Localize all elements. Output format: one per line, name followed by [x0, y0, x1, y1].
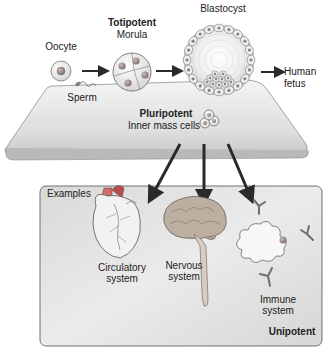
cell-nucleus: [224, 83, 226, 85]
cell-nucleus: [227, 77, 229, 79]
cell-nucleus: [199, 33, 202, 36]
human-fetus-label-line1: Human: [284, 66, 320, 77]
cell-nucleus: [214, 73, 216, 75]
inner-mass-cells-label: Inner mass cells: [124, 120, 204, 131]
cell-nucleus: [208, 28, 211, 31]
cell-nucleus: [187, 49, 190, 52]
cell-nucleus: [249, 58, 252, 61]
cell-nucleus: [217, 26, 220, 29]
cell-nucleus: [230, 81, 232, 83]
cell-nucleus: [243, 40, 246, 43]
cell-nucleus: [208, 89, 211, 92]
oocyte-label: Oocyte: [41, 41, 81, 52]
blastocyst-label: Blastocyst: [195, 3, 251, 14]
oocyte-cell: [51, 61, 71, 81]
circulatory-label-line1: Circulatory: [97, 262, 147, 273]
cell-nucleus: [215, 78, 217, 80]
morula-cell: [113, 53, 151, 91]
nervous-label-line1: Nervous: [164, 260, 204, 271]
nervous-label-line2: system: [164, 271, 204, 282]
cell-nucleus: [209, 77, 211, 79]
cell-nucleus: [192, 40, 195, 43]
cell-nucleus: [227, 89, 230, 92]
cell-nucleus: [218, 84, 220, 86]
immune-label-line2: system: [258, 305, 298, 316]
totipotent-label: Totipotent: [105, 17, 159, 28]
human-fetus-label-line2: fetus: [284, 78, 320, 89]
cell-nucleus: [236, 33, 239, 36]
cell-nucleus: [248, 68, 251, 71]
unipotent-label: Unipotent: [266, 326, 318, 337]
pluripotent-label: Pluripotent: [136, 108, 196, 119]
cell-nucleus: [212, 83, 214, 85]
cell-nucleus: [221, 78, 223, 80]
cell-nucleus: [222, 73, 224, 75]
cell-nucleus: [192, 77, 195, 80]
sperm-label: Sperm: [62, 92, 102, 103]
cell-nucleus: [199, 84, 202, 87]
cell-nucleus: [187, 68, 190, 71]
cell-nucleus: [236, 84, 239, 87]
cell-nucleus: [217, 90, 220, 93]
cell-nucleus: [243, 77, 246, 80]
circulatory-label-line2: system: [97, 273, 147, 284]
examples-label: Examples: [47, 188, 93, 199]
cell-nucleus: [248, 49, 251, 52]
cell-nucleus: [227, 28, 230, 31]
immune-label-line1: Immune: [258, 294, 298, 305]
morula-label: Morula: [110, 29, 154, 40]
cell-nucleus: [185, 58, 188, 61]
cell-nucleus: [206, 81, 208, 83]
